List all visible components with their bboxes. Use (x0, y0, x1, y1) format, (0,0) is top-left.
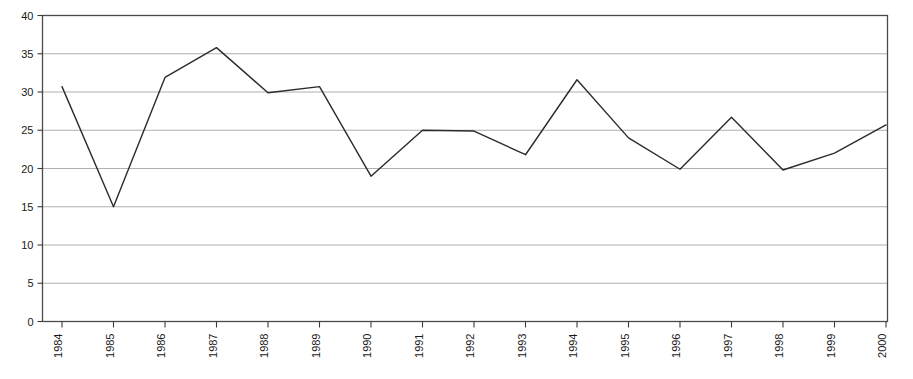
x-tick-label-1987: 1987 (207, 334, 219, 358)
x-tick-label-2000: 2000 (876, 334, 888, 358)
line-chart: 0510152025303540 19841985198619871988198… (0, 0, 913, 379)
x-tick-label-1995: 1995 (619, 334, 631, 358)
y-tick-label-5: 5 (27, 277, 33, 289)
y-tick-label-30: 30 (21, 86, 33, 98)
x-tick-label-1984: 1984 (52, 334, 64, 358)
y-tick-label-40: 40 (21, 10, 33, 22)
y-tick-label-20: 20 (21, 163, 33, 175)
x-tick-label-1989: 1989 (310, 334, 322, 358)
y-tick-label-0: 0 (27, 316, 33, 328)
x-tick-label-1986: 1986 (155, 334, 167, 358)
x-tick-label-1996: 1996 (670, 334, 682, 358)
x-tick-label-1997: 1997 (722, 334, 734, 358)
x-tick-label-1985: 1985 (104, 334, 116, 358)
x-tick-label-1993: 1993 (516, 334, 528, 358)
y-tick-label-10: 10 (21, 239, 33, 251)
x-tick-label-1999: 1999 (825, 334, 837, 358)
x-tick-label-1998: 1998 (773, 334, 785, 358)
y-tick-label-35: 35 (21, 48, 33, 60)
chart-canvas: 0510152025303540 19841985198619871988198… (0, 0, 913, 379)
y-tick-label-25: 25 (21, 124, 33, 136)
x-tick-label-1994: 1994 (567, 334, 579, 358)
x-tick-label-1992: 1992 (464, 334, 476, 358)
x-tick-label-1988: 1988 (258, 334, 270, 358)
y-tick-label-15: 15 (21, 201, 33, 213)
x-tick-label-1991: 1991 (413, 334, 425, 358)
x-tick-label-1990: 1990 (361, 334, 373, 358)
